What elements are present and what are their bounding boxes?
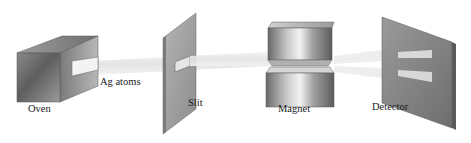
oven-label: Oven [28, 103, 51, 114]
magnet [266, 22, 334, 107]
slit-label: Slit [188, 97, 203, 108]
detector-screen [382, 17, 456, 130]
detector-label: Detector [372, 101, 408, 112]
magnet-label: Magnet [278, 103, 310, 114]
collimated-beam [190, 52, 270, 66]
slit-plate [163, 13, 196, 134]
oven [17, 36, 98, 102]
ag-atoms-label: Ag atoms [100, 76, 141, 87]
stern-gerlach-diagram: Oven Ag atoms Slit Magnet Detector [0, 0, 471, 143]
